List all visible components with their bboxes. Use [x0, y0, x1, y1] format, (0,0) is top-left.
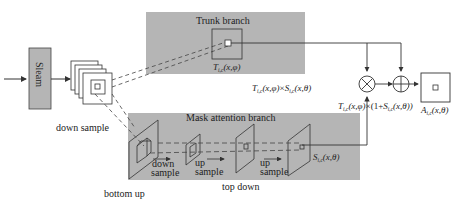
svg-text:Sleam: Sleam — [34, 62, 45, 87]
mask-branch-label: Mask attention branch — [186, 112, 275, 123]
svg-text:sample: sample — [260, 166, 289, 177]
svg-text:sample: sample — [195, 166, 224, 177]
top-down-label: top down — [222, 181, 260, 192]
feature-map-stack — [71, 61, 112, 104]
trunk-output-label: Ti,c(x,φ) — [213, 62, 241, 73]
trunk-branch-label: Trunk branch — [196, 15, 250, 26]
trunk-skip-line — [367, 43, 401, 71]
attention-output-label: Ai,c(x,θ) — [420, 105, 449, 116]
svg-text:sample: sample — [151, 167, 180, 178]
product-label: Ti,c(x,φ)×Si,c(x,θ) — [252, 83, 311, 94]
down-sample-left-label: down sample — [56, 122, 110, 133]
attention-diagram: Trunk branch Mask attention branch Sleam… — [0, 0, 467, 203]
multiply-operator-icon — [359, 76, 375, 92]
mask-output-label: Si,c(x,θ) — [313, 152, 340, 163]
residual-label: Ti,c(x,φ)×(1+Si,c(x,θ)) — [338, 101, 413, 112]
bottom-up-label: bottom up — [104, 188, 145, 199]
add-operator-icon — [393, 76, 409, 92]
output-box — [421, 73, 450, 102]
stream-block: Sleam — [29, 48, 51, 109]
